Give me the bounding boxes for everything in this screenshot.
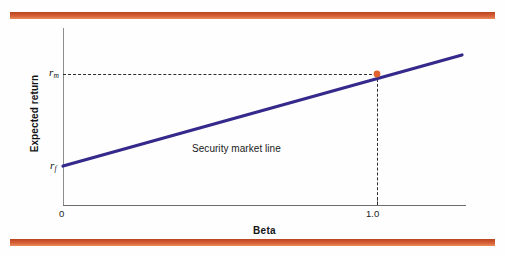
x-tick-label-zero: 0 [59, 208, 64, 219]
plot-area: Expected return Beta 0 1.0 rm rf Securit… [0, 0, 505, 256]
security-market-line-svg [0, 0, 505, 256]
y-tick-label-market: rm [49, 66, 59, 78]
x-axis-title: Beta [63, 225, 466, 236]
decorative-bottom-rule [10, 239, 495, 246]
y-tick-label-market-subscript: m [53, 71, 58, 80]
y-axis-line [63, 28, 64, 206]
y-tick-label-riskfree-subscript: f [54, 164, 56, 173]
y-axis-title: Expected return [29, 39, 40, 189]
vertical-dashed-guide [377, 74, 378, 205]
horizontal-dashed-guide [63, 74, 377, 75]
x-axis-line [63, 205, 466, 206]
figure-container: Expected return Beta 0 1.0 rm rf Securit… [0, 0, 505, 256]
y-tick-label-riskfree: rf [50, 159, 56, 171]
x-tick-label-one: 1.0 [366, 208, 379, 219]
sml-annotation-label: Security market line [192, 143, 281, 154]
